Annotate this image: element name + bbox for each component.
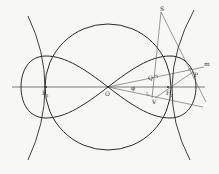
lemniscate-diagram: F1 F2 O Q V P S m φ <box>0 0 219 174</box>
label-Q: Q <box>148 74 153 81</box>
label-S: S <box>160 5 164 12</box>
hyperbola-left-branch <box>28 16 45 160</box>
line-Om <box>108 67 204 87</box>
line-S-V <box>152 12 161 98</box>
point-O <box>107 86 109 88</box>
hyperbola-right-branch <box>172 10 194 160</box>
label-P: P <box>194 71 198 78</box>
label-V: V <box>151 98 157 105</box>
right-angle-V <box>147 92 150 95</box>
point-F2 <box>167 86 169 88</box>
label-m: m <box>204 60 210 67</box>
label-F1: F1 <box>42 89 49 98</box>
label-O: O <box>105 90 110 97</box>
point-F1 <box>45 86 47 88</box>
label-phi: φ <box>131 84 135 92</box>
